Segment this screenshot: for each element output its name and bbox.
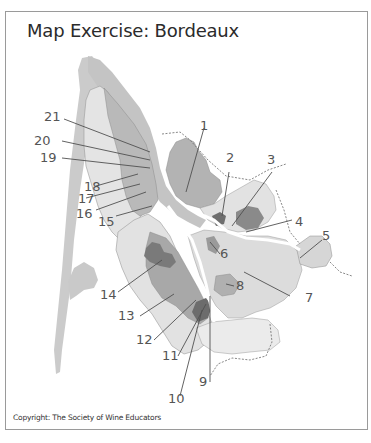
- label-15: 15: [98, 214, 115, 229]
- label-7: 7: [305, 290, 313, 305]
- copyright-text: Copyright: The Society of Wine Educators: [13, 413, 161, 422]
- arcachon-bay: [68, 262, 98, 300]
- label-8: 8: [236, 278, 244, 293]
- south-region: [196, 318, 280, 354]
- label-11: 11: [162, 348, 179, 363]
- label-14: 14: [100, 287, 117, 302]
- bordeaux-map: 1 2 3 4 5 6 7 8 9 10 11 12 13 14 15 16 1…: [0, 0, 371, 443]
- label-9: 9: [199, 374, 207, 389]
- label-4: 4: [295, 214, 303, 229]
- label-19: 19: [40, 150, 57, 165]
- label-6: 6: [220, 246, 228, 261]
- label-1: 1: [200, 118, 208, 133]
- label-12: 12: [136, 332, 153, 347]
- blaye-region: [166, 138, 222, 208]
- label-2: 2: [226, 150, 234, 165]
- label-20: 20: [34, 133, 51, 148]
- label-13: 13: [118, 308, 135, 323]
- label-16: 16: [76, 206, 93, 221]
- label-18: 18: [84, 179, 101, 194]
- label-3: 3: [267, 152, 275, 167]
- label-5: 5: [322, 228, 330, 243]
- label-10: 10: [168, 391, 185, 406]
- label-21: 21: [44, 109, 61, 124]
